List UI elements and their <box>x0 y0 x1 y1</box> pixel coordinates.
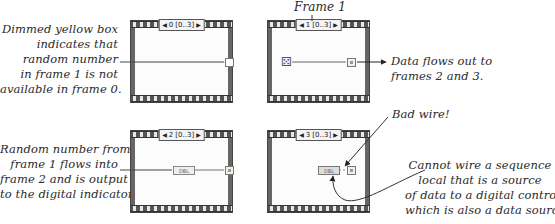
wires-and-pointers <box>0 0 555 224</box>
